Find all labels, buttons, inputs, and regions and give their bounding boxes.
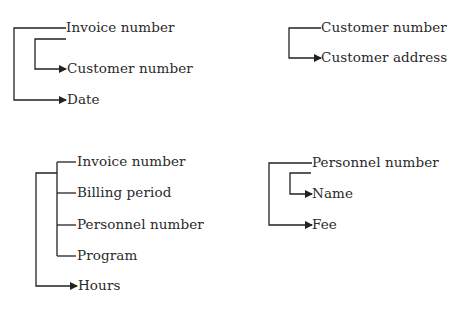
diagram-invoice-lines (14, 28, 66, 100)
d4-name: Name (312, 185, 353, 201)
diagram-customer-lines (289, 28, 321, 58)
d3-invoice-number: Invoice number (77, 153, 186, 169)
d4-personnel-number: Personnel number (312, 154, 439, 170)
d3-hours: Hours (78, 277, 120, 293)
d3-personnel-number: Personnel number (77, 216, 204, 232)
d3-billing-period: Billing period (77, 184, 171, 200)
d3-program: Program (77, 247, 137, 263)
d1-customer-number: Customer number (67, 60, 193, 76)
diagram-billing-lines (36, 162, 77, 286)
d2-customer-number: Customer number (321, 19, 447, 35)
d2-customer-address: Customer address (321, 49, 447, 65)
d1-date: Date (67, 91, 100, 107)
diagram-personnel-lines (269, 163, 312, 225)
d4-fee: Fee (312, 216, 337, 232)
d1-invoice-number: Invoice number (66, 19, 175, 35)
